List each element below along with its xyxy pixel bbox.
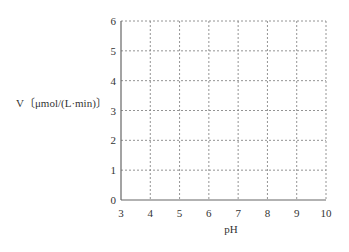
grid-lines bbox=[121, 21, 326, 200]
y-tick-label: 6 bbox=[111, 15, 117, 27]
y-tick-label: 4 bbox=[111, 75, 117, 87]
x-tick-label: 3 bbox=[118, 207, 124, 219]
y-tick-label: 0 bbox=[111, 194, 117, 206]
x-tick-label: 4 bbox=[148, 207, 154, 219]
x-tick-label: 5 bbox=[177, 207, 183, 219]
y-tick-labels: 0123456 bbox=[111, 15, 117, 206]
x-tick-label: 10 bbox=[321, 207, 333, 219]
y-tick-label: 1 bbox=[111, 164, 117, 176]
x-tick-label: 8 bbox=[265, 207, 271, 219]
x-axis-label: pH bbox=[224, 223, 238, 235]
axes bbox=[121, 21, 326, 200]
y-tick-label: 2 bbox=[111, 134, 117, 146]
chart-canvas: 0123456 345678910 V〔μmol/(L·min)〕 pH bbox=[0, 0, 349, 252]
x-tick-label: 9 bbox=[294, 207, 300, 219]
x-tick-label: 7 bbox=[235, 207, 241, 219]
x-tick-label: 6 bbox=[206, 207, 212, 219]
x-tick-labels: 345678910 bbox=[118, 207, 332, 219]
y-axis-label: V〔μmol/(L·min)〕 bbox=[16, 97, 107, 110]
y-tick-label: 3 bbox=[111, 105, 117, 117]
y-tick-label: 5 bbox=[111, 45, 117, 57]
